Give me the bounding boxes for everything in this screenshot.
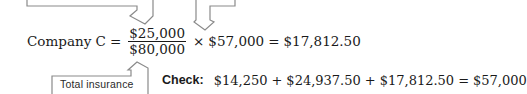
equals-sign: = [110, 33, 121, 49]
check-line: Check: $14,250 + $24,937.50 + $17,812.50… [162, 71, 527, 89]
check-term-1: $14,250 [214, 73, 268, 88]
check-term-3: $17,812.50 [380, 73, 454, 88]
share-fraction: $25,000 $80,000 [128, 27, 186, 56]
check-total: $57,000 [473, 73, 527, 88]
check-equals-sign: = [458, 73, 469, 88]
equals-sign-2: = [268, 33, 279, 49]
fraction-numerator: $25,000 [128, 27, 186, 42]
plus-sign-2: + [365, 73, 376, 88]
fraction-denominator: $80,000 [128, 42, 186, 56]
equation-lhs: Company C [27, 33, 106, 49]
company-c-equation: Company C = $25,000 $80,000 × $57,000 = … [27, 26, 361, 56]
check-label: Check: [162, 73, 204, 87]
down-arrow-left-icon [27, 0, 153, 24]
result-value: $17,812.50 [283, 33, 360, 49]
times-sign: × [193, 33, 204, 49]
check-term-2: $24,937.50 [286, 73, 360, 88]
multiplier-value: $57,000 [208, 33, 264, 49]
plus-sign-1: + [271, 73, 282, 88]
total-insurance-label: Total insurance [60, 78, 134, 90]
